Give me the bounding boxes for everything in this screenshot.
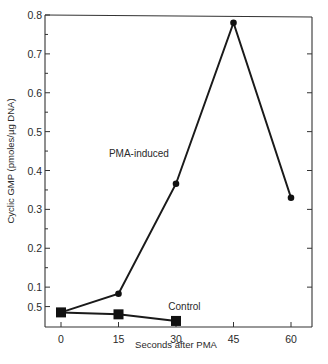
labels: 0.50.10.20.30.40.50.60.70.8015304560Seco… <box>5 9 297 350</box>
y-tick-label: 0.4 <box>27 165 42 177</box>
y-tick-label: 0.1 <box>27 281 42 293</box>
data-point-circle <box>288 194 295 201</box>
axes <box>45 15 312 327</box>
x-tick-label: 15 <box>113 333 125 345</box>
x-axis-title: Seconds after PMA <box>135 339 218 350</box>
y-tick-label: 0.3 <box>27 203 42 215</box>
y-axis-title: Cyclic GMP (pmoles/µg DNA) <box>5 98 16 223</box>
chart: 0.50.10.20.30.40.50.60.70.8015304560Seco… <box>0 0 328 364</box>
data-point-circle <box>230 19 237 26</box>
y-tick-label: 0.7 <box>27 48 42 60</box>
series-label: Control <box>168 301 200 312</box>
top-frame <box>45 15 312 17</box>
y-tick-label: 0.6 <box>27 87 42 99</box>
series-line-pma-induced <box>61 23 291 313</box>
y-tick-label: 0.8 <box>27 9 42 21</box>
y-tick-label: 0.2 <box>27 242 42 254</box>
cropped-caption-fragment <box>0 352 328 364</box>
data-point-square <box>114 309 124 319</box>
series <box>56 19 294 325</box>
series-label: PMA-induced <box>109 148 169 159</box>
x-tick-label: 0 <box>58 333 64 345</box>
y-tick-label: 0.5 <box>27 301 42 313</box>
x-tick-label: 60 <box>285 333 297 345</box>
data-point-circle <box>115 290 122 297</box>
ticks <box>45 15 312 327</box>
data-point-square <box>56 307 66 317</box>
data-point-circle <box>173 180 180 187</box>
data-point-square <box>171 316 181 326</box>
x-tick-label: 45 <box>228 333 240 345</box>
y-tick-label: 0.5 <box>27 126 42 138</box>
